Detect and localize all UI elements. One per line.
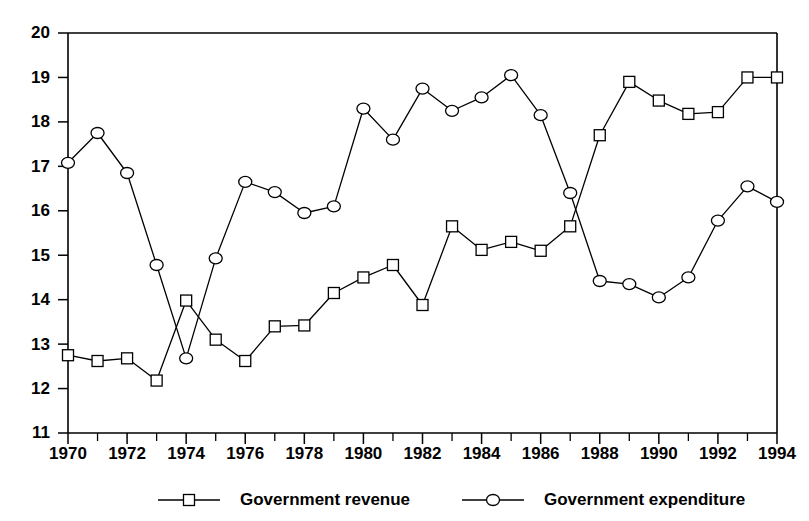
x-axis-tick-label: 1978 (285, 444, 323, 463)
data-point-circle (298, 208, 311, 219)
data-point-circle (564, 188, 577, 199)
data-point-square (506, 236, 517, 247)
data-point-square (181, 295, 192, 306)
data-point-circle (327, 201, 340, 212)
x-axis-tick-label: 1990 (640, 444, 678, 463)
data-point-circle (505, 70, 518, 81)
data-point-circle (268, 187, 281, 198)
data-point-circle (623, 279, 636, 290)
data-point-square (476, 244, 487, 255)
legend-label: Government expenditure (544, 490, 745, 509)
data-point-square (122, 353, 133, 364)
x-axis-tick-label: 1974 (167, 444, 205, 463)
x-axis-tick-label: 1976 (226, 444, 264, 463)
data-point-circle (682, 272, 695, 283)
y-axis-tick-label: 16 (31, 201, 50, 220)
y-axis-tick-label: 12 (31, 379, 50, 398)
data-point-circle (62, 157, 75, 168)
data-point-square (63, 350, 74, 361)
data-point-circle (534, 110, 547, 121)
x-axis-tick-label: 1994 (758, 444, 796, 463)
data-point-square (210, 334, 221, 345)
data-point-square (358, 272, 369, 283)
y-axis-tick-label: 17 (31, 157, 50, 176)
data-point-circle (180, 353, 193, 364)
x-axis-tick-label: 1984 (463, 444, 501, 463)
data-point-square (417, 300, 428, 311)
legend-marker-circle (487, 495, 500, 506)
legend-marker-square (184, 495, 195, 506)
data-point-square (269, 321, 280, 332)
data-point-square (653, 95, 664, 106)
y-axis-tick-label: 19 (31, 68, 50, 87)
data-point-circle (446, 105, 459, 116)
data-point-square (151, 375, 162, 386)
data-point-square (624, 76, 635, 87)
x-axis-tick-label: 1992 (699, 444, 737, 463)
data-point-circle (91, 128, 104, 139)
x-axis-tick-label: 1970 (49, 444, 87, 463)
data-point-circle (711, 215, 724, 226)
x-axis-tick-label: 1988 (581, 444, 619, 463)
chart-container: 11121314151617181920 1970197219741976197… (0, 0, 809, 521)
data-point-circle (771, 196, 784, 207)
y-axis-tick-label: 14 (31, 290, 50, 309)
line-chart: 11121314151617181920 1970197219741976197… (0, 0, 809, 521)
x-axis-tick-label: 1982 (404, 444, 442, 463)
data-point-circle (121, 168, 134, 179)
x-axis-tick-label: 1972 (108, 444, 146, 463)
data-point-square (742, 72, 753, 83)
x-axis-tick-label: 1986 (522, 444, 560, 463)
chart-background (0, 0, 809, 521)
data-point-square (772, 72, 783, 83)
data-point-square (535, 245, 546, 256)
legend-label: Government revenue (240, 490, 410, 509)
data-point-circle (209, 253, 222, 264)
data-point-square (299, 320, 310, 331)
data-point-square (712, 107, 723, 118)
data-point-circle (357, 103, 370, 114)
data-point-square (565, 221, 576, 232)
data-point-square (594, 130, 605, 141)
data-point-circle (416, 83, 429, 94)
y-axis-tick-label: 15 (31, 246, 50, 265)
y-axis-tick-label: 11 (32, 423, 50, 442)
data-point-circle (239, 176, 252, 187)
y-axis-tick-label: 20 (31, 23, 50, 42)
data-point-circle (652, 292, 665, 303)
data-point-square (683, 108, 694, 119)
data-point-circle (593, 276, 606, 287)
data-point-circle (150, 260, 163, 271)
y-axis-tick-label: 18 (31, 112, 50, 131)
data-point-square (328, 288, 339, 299)
data-point-circle (475, 92, 488, 103)
y-axis-tick-label: 13 (31, 335, 50, 354)
data-point-circle (741, 181, 754, 192)
data-point-circle (386, 134, 399, 145)
data-point-square (387, 260, 398, 271)
data-point-square (240, 356, 251, 367)
data-point-square (447, 221, 458, 232)
data-point-square (92, 356, 103, 367)
x-axis-tick-label: 1980 (345, 444, 383, 463)
